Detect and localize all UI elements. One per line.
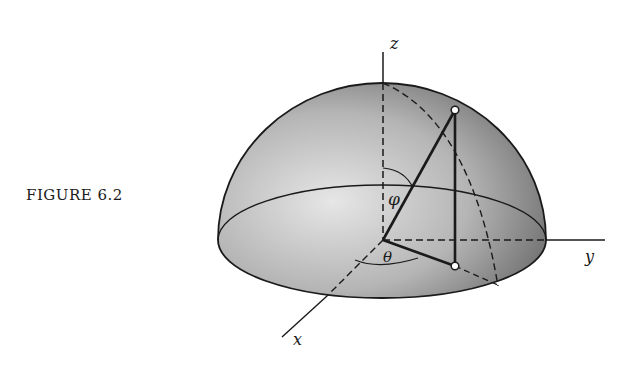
x-axis-label: x	[293, 330, 302, 349]
surface-point	[451, 106, 459, 114]
theta-label: θ	[383, 248, 392, 266]
projected-point	[451, 262, 459, 270]
phi-label: φ	[388, 189, 400, 209]
x-axis-line	[282, 296, 327, 337]
y-axis-label: y	[584, 247, 595, 266]
hemisphere-surface	[218, 83, 546, 298]
z-axis-label: z	[389, 34, 399, 53]
hemisphere-diagram: z y x φ θ	[0, 0, 638, 369]
